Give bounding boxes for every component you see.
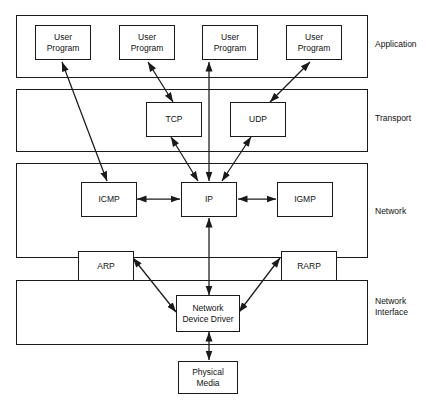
node-label-line: UDP xyxy=(249,114,267,125)
node-label-line: User xyxy=(305,32,323,43)
node-label-line: IP xyxy=(205,194,213,205)
node-label-line: Media xyxy=(196,378,219,389)
node-label-line: User xyxy=(138,32,156,43)
layer-label-line: Network xyxy=(375,296,408,307)
node-label-line: RARP xyxy=(297,261,321,272)
node-label-line: Program xyxy=(214,43,247,54)
node-user-program-1[interactable]: User Program xyxy=(35,25,91,60)
node-label-line: Program xyxy=(298,43,331,54)
layer-label-transport: Transport xyxy=(375,113,411,124)
node-label-line: Device Driver xyxy=(182,314,233,325)
node-udp[interactable]: UDP xyxy=(230,102,286,137)
node-label-line: Program xyxy=(131,43,164,54)
node-network-device-driver[interactable]: Network Device Driver xyxy=(176,295,240,332)
node-user-program-4[interactable]: User Program xyxy=(286,25,342,60)
node-label-line: ICMP xyxy=(98,194,119,205)
protocol-stack-diagram: User Program User Program User Program U… xyxy=(0,0,426,404)
layer-label-line: Interface xyxy=(375,307,408,318)
node-user-program-2[interactable]: User Program xyxy=(119,25,175,60)
node-label-line: TCP xyxy=(166,114,183,125)
node-label-line: Physical xyxy=(192,367,224,378)
node-igmp[interactable]: IGMP xyxy=(277,182,333,217)
node-rarp[interactable]: RARP xyxy=(281,251,337,281)
layer-label-application: Application xyxy=(375,39,417,50)
layer-label-line: Network xyxy=(375,206,406,217)
node-label-line: Network xyxy=(192,303,223,314)
node-label-line: ARP xyxy=(97,261,114,272)
node-user-program-3[interactable]: User Program xyxy=(202,25,258,60)
node-arp[interactable]: ARP xyxy=(78,251,134,281)
node-label-line: IGMP xyxy=(294,194,316,205)
node-label-line: Program xyxy=(47,43,80,54)
node-physical-media[interactable]: Physical Media xyxy=(178,361,238,394)
layer-label-line: Application xyxy=(375,39,417,50)
node-label-line: User xyxy=(221,32,239,43)
node-ip[interactable]: IP xyxy=(181,182,237,217)
node-icmp[interactable]: ICMP xyxy=(81,182,137,217)
layer-label-network-interface: Network Interface xyxy=(375,296,408,317)
layer-label-line: Transport xyxy=(375,113,411,124)
node-label-line: User xyxy=(54,32,72,43)
node-tcp[interactable]: TCP xyxy=(146,102,202,137)
layer-label-network: Network xyxy=(375,206,406,217)
